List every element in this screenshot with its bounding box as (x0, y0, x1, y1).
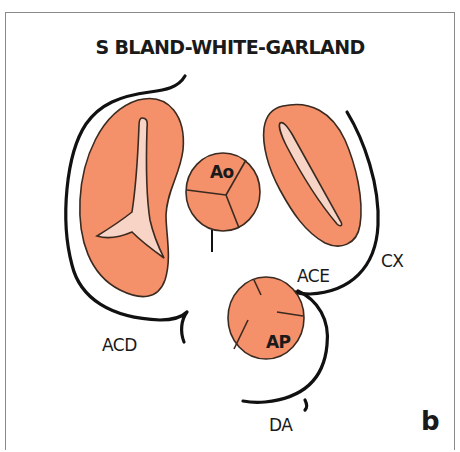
cx-label: CX (381, 251, 404, 271)
acd-label: ACD (102, 335, 137, 355)
aorta-label: Ao (210, 162, 234, 182)
right-ventricle (80, 99, 184, 297)
aorta: Ao (186, 153, 260, 231)
da-label: DA (269, 415, 293, 435)
ace-label: ACE (297, 266, 329, 286)
diagram-title: S BLAND-WHITE-GARLAND (95, 36, 364, 58)
panel-letter: b (421, 406, 440, 436)
pulmonary-artery: AP (228, 277, 304, 359)
pulmonary-artery-label: AP (266, 332, 291, 352)
diagram-canvas: S BLAND-WHITE-GARLAND Ao AP ACD ACE CX D… (0, 0, 460, 452)
